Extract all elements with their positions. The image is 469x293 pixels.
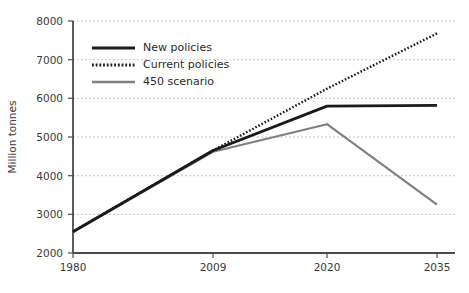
legend: New policies Current policies 450 scenar… <box>92 41 230 88</box>
series-line-new-policies <box>73 105 437 231</box>
legend-label-new-policies: New policies <box>143 41 212 54</box>
y-tick-label-3000: 3000 <box>36 208 63 220</box>
line-chart: 8000 7000 6000 5000 4000 3000 2000 1980 … <box>0 0 469 293</box>
y-tick-label-8000: 8000 <box>36 15 63 27</box>
series-line-450-scenario <box>73 124 437 232</box>
x-tick-label-2009: 2009 <box>200 261 227 273</box>
x-tick-label-2020: 2020 <box>314 261 341 273</box>
x-tick-label-1980: 1980 <box>60 261 87 273</box>
legend-label-450-scenario: 450 scenario <box>143 75 214 88</box>
series-group <box>73 33 437 231</box>
y-axis-title: Million tonnes <box>6 101 18 174</box>
x-tick-label-2035: 2035 <box>424 261 451 273</box>
chart-canvas: 8000 7000 6000 5000 4000 3000 2000 1980 … <box>0 0 469 293</box>
legend-label-current-policies: Current policies <box>143 58 230 71</box>
y-tick-label-5000: 5000 <box>36 131 63 143</box>
y-tick-label-6000: 6000 <box>36 92 63 104</box>
series-line-current-policies <box>73 33 437 231</box>
y-tick-label-2000: 2000 <box>36 247 63 259</box>
y-tick-label-4000: 4000 <box>36 170 63 182</box>
y-tick-label-7000: 7000 <box>36 54 63 66</box>
gridlines <box>73 21 455 214</box>
